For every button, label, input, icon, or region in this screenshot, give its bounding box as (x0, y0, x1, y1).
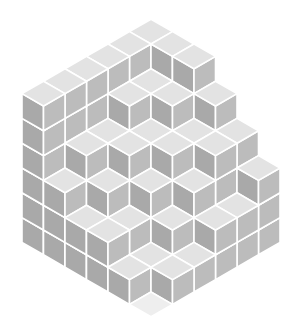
isometric-cube-illustration (0, 0, 302, 327)
cube-faces (22, 19, 280, 317)
